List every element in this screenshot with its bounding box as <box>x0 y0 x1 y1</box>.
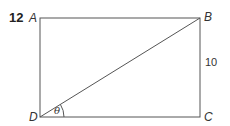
side-length-bc: 10 <box>205 57 217 68</box>
vertex-label-c: C <box>204 111 213 123</box>
angle-theta-label: θ <box>54 106 60 116</box>
diagonal-db <box>40 18 200 117</box>
question-number: 12 <box>9 10 23 25</box>
vertex-label-d: D <box>29 111 38 123</box>
angle-theta-arc <box>60 104 64 117</box>
rectangle-diagram: 12 A B C D 10 θ <box>0 0 230 126</box>
vertex-label-a: A <box>29 12 37 24</box>
vertex-label-b: B <box>204 11 212 23</box>
